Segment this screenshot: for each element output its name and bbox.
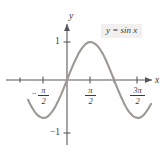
sine-graph-figure: x y y = sin x 1 −1 − π 2 π 2 3π 2 [0,0,167,153]
numerator: π [85,86,96,95]
numerator: π [38,86,49,95]
graph-canvas: x y [0,0,167,153]
denominator: 2 [130,97,145,106]
x-tick-label-pi-over-2: π 2 [85,86,96,105]
equation-annotation: y = sin x [101,24,142,38]
numerator: 3π [130,86,145,95]
x-axis-label-text: x [154,75,160,85]
x-tick-label-3pi-over-2: 3π 2 [130,86,145,105]
x-axis-arrowhead [145,77,152,83]
denominator: 2 [38,97,49,106]
x-tick-label-minus-pi-over-2: − π 2 [38,86,49,105]
y-axis-label-text: y [68,11,74,21]
y-tick-label-minus-one: −1 [50,127,60,137]
denominator: 2 [85,97,96,106]
minus-sign: − [32,89,37,98]
y-axis-arrowhead [64,24,70,31]
y-tick-label-one: 1 [55,36,60,46]
